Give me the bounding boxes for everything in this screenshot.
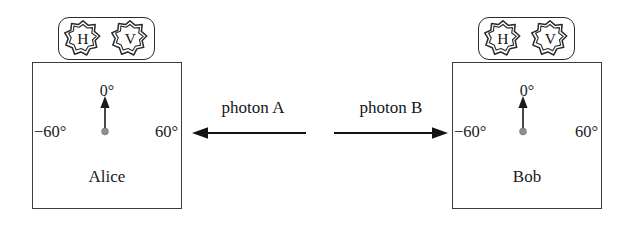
- octagram-badge-icon-h: H: [64, 20, 102, 58]
- bob-detector-box: [452, 62, 602, 209]
- alice-detector-box: [32, 62, 182, 209]
- photon-a-group: photon A: [188, 0, 318, 227]
- photon-a-arrow-icon: [188, 122, 318, 144]
- badge-letter: H: [497, 31, 508, 47]
- bob-output-badge-bar: H V: [478, 17, 575, 60]
- badge-letter: V: [545, 31, 556, 47]
- octagram-badge-icon-h: H: [484, 20, 522, 58]
- octagram-badge-icon-v: V: [531, 20, 569, 58]
- octagram-badge-icon-v: V: [111, 20, 149, 58]
- alice-output-badge-bar: H V: [58, 17, 155, 60]
- photon-a-label: photon A: [188, 98, 318, 118]
- station-bob: H V 0° −60° 60° Bob: [420, 0, 620, 227]
- badge-letter: H: [77, 31, 88, 47]
- entanglement-figure: H V 0° −60° 60° Alice photon: [0, 0, 631, 227]
- badge-letter: V: [125, 31, 136, 47]
- station-alice: H V 0° −60° 60° Alice: [0, 0, 200, 227]
